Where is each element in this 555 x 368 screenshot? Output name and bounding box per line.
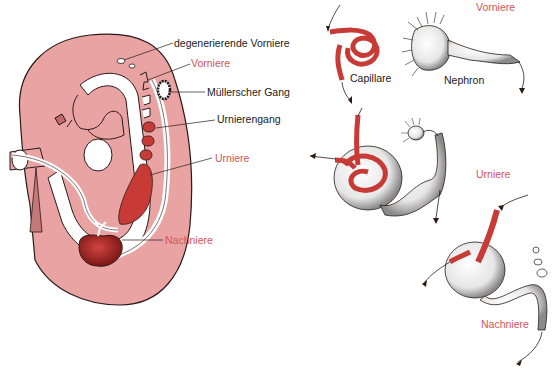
stage-label-metanephros: Nachniere xyxy=(481,318,529,330)
label-muellerian-duct: Müllerscher Gang xyxy=(207,86,290,98)
label-nephron: Nephron xyxy=(444,74,484,86)
muellerian-duct-structure xyxy=(158,81,170,99)
pronephros-illustration xyxy=(326,5,525,104)
label-degenerating-pronephros: degenerierende Vorniere xyxy=(174,37,290,49)
metanephros-illustration xyxy=(422,195,547,366)
stage-label-mesonephros: Urniere xyxy=(476,168,510,180)
diagram-canvas xyxy=(0,0,555,368)
label-metanephros: Nachniere xyxy=(165,234,213,246)
mesonephros-illustration xyxy=(310,108,446,224)
label-mesonephric-duct: Urnierengang xyxy=(217,113,281,125)
embryo-illustration xyxy=(10,34,215,305)
label-capillary: Capillare xyxy=(350,72,391,84)
stage-label-pronephros: Vorniere xyxy=(476,1,515,13)
label-mesonephros: Urniere xyxy=(215,152,249,164)
label-pronephros: Vorniere xyxy=(191,57,230,69)
